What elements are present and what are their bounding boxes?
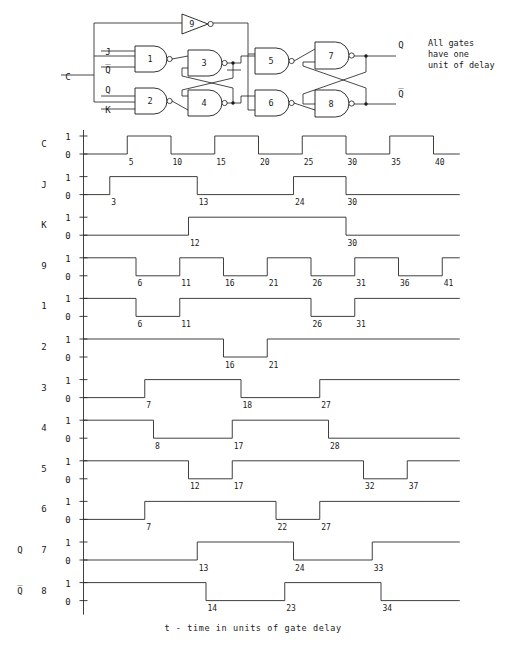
nand-gate-3: 3 [188,50,227,76]
level-label-high: 1 [65,497,70,507]
time-tick-label: 13 [199,564,209,573]
level-label-low: 0 [65,556,70,566]
time-tick-label: 36 [400,279,410,288]
time-tick-label: 18 [243,401,253,410]
level-label-low: 0 [65,231,70,241]
time-tick-label: 24 [295,564,305,573]
time-tick-label: 17 [234,442,244,451]
time-tick-label: 20 [260,158,270,167]
time-tick-label: 30 [348,239,358,248]
time-tick-label: 30 [348,158,358,167]
input-label-J: J [105,47,110,57]
waveform-row-label: 3 [41,383,46,393]
time-tick-label: 26 [313,279,323,288]
time-tick-label: 3 [111,198,116,207]
waveform-trace [84,177,460,195]
level-label-low: 0 [65,150,70,160]
level-label-high: 1 [65,335,70,345]
wire-g7-cross-to-g8 [303,56,366,104]
time-tick-label: 11 [181,320,191,329]
time-tick-label: 10 [173,158,183,167]
nand-bubble-icon [167,98,172,103]
time-tick-label: 15 [216,158,226,167]
waveform-trace [84,136,460,154]
waveform-row-label: 8 [41,586,46,596]
time-tick-label: 41 [444,279,454,288]
time-tick-label: 16 [225,279,235,288]
level-label-high: 1 [65,213,70,223]
waveform-row-label: K [41,220,47,230]
level-label-low: 0 [65,312,70,322]
time-tick-label: 26 [313,320,323,329]
time-tick-label: 35 [391,158,401,167]
time-tick-label: 28 [330,442,340,451]
waveform-row-label: 7 [41,545,46,555]
gate-label: 7 [328,51,333,61]
input-label-C: C [65,72,70,82]
level-label-low: 0 [65,394,70,404]
waveform-row: 1106112631 [41,294,459,329]
nand-bubble-icon [222,100,227,105]
waveform-row-label: 4 [41,423,46,433]
time-tick-label: 7 [146,401,151,410]
time-tick-label: 37 [409,482,419,491]
waveform-row-label: 2 [41,342,46,352]
time-tick-label: 33 [374,564,384,573]
wire-g5-to-g7 [294,49,315,61]
level-label-high: 1 [65,376,70,386]
time-tick-label: 24 [295,198,305,207]
waveform-row-label: J [41,180,46,190]
nand-bubble-icon [349,53,354,58]
gate-label: 8 [328,99,333,109]
waveform-trace [84,461,460,479]
time-tick-label: 7 [146,523,151,532]
nand-gate-7: 7 [315,42,354,69]
level-label-high: 1 [65,538,70,548]
time-tick-label: 21 [269,361,279,370]
waveform-row: 910611162126313641 [41,254,459,288]
waveform-trace [84,217,460,235]
time-tick-label: 12 [190,239,200,248]
time-tick-label: 31 [356,279,366,288]
time-tick-label: 14 [208,604,218,613]
waveform-row: 41081728 [41,416,459,451]
gate-label: 1 [147,54,152,64]
gate-label: 5 [268,56,273,66]
note-line: have one [428,49,469,59]
time-tick-label: 32 [365,482,375,491]
waveform-trace [84,583,460,601]
waveform-trace [84,501,460,519]
input-label-Qbar: Q̅ [105,64,111,75]
gate-label: 4 [201,98,206,108]
time-tick-label: 5 [129,158,134,167]
wire-g4-cross-to-g3 [182,68,233,103]
time-tick-label: 30 [348,198,358,207]
nand-gate-5: 5 [255,48,294,74]
note-line: All gates [428,38,474,48]
time-tick-label: 6 [138,279,143,288]
waveform-plot: C10510152025303540J103132430K10123091061… [0,126,506,656]
waveform-trace [84,420,460,438]
input-label-K: K [105,105,111,115]
waveform-row-label: 9 [41,261,46,271]
waveform-trace [84,542,460,560]
wire-g3-cross-to-g4 [182,63,233,96]
waveform-row-label: C [41,139,46,149]
output-label-Qbar: Q̅ [398,88,404,99]
circuit-schematic: 123456789CJQ̅QKQQ̅All gateshave oneunit … [0,0,506,128]
time-tick-label: 25 [304,158,314,167]
time-tick-label: 11 [181,279,191,288]
level-label-high: 1 [65,173,70,183]
waveform-trace [84,339,460,357]
time-tick-label: 13 [199,198,209,207]
nand-gate-4: 4 [188,90,227,116]
wire-g3-to-g5 [233,56,255,63]
nand-bubble-icon [222,60,227,65]
level-label-high: 1 [65,457,70,467]
waveform-row: 61072227 [41,497,459,532]
output-label-Q: Q [398,40,403,50]
time-tick-label: 21 [269,279,279,288]
level-label-low: 0 [65,191,70,201]
waveform-trace [84,380,460,398]
waveform-row-label: 1 [41,301,46,311]
